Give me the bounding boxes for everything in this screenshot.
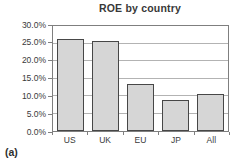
x-tick-mark-4 xyxy=(194,132,195,135)
y-tick-label-5: 5.0% xyxy=(0,109,46,120)
bar-slot-US xyxy=(53,26,88,131)
x-axis-labels: USUKEUJPAll xyxy=(52,135,229,145)
bar-slot-All xyxy=(193,26,228,131)
y-tick-mark-5 xyxy=(48,114,52,115)
y-tick-mark-20 xyxy=(48,60,52,61)
y-tick-mark-30 xyxy=(48,25,52,26)
y-tick-mark-10 xyxy=(48,96,52,97)
y-tick-mark-25 xyxy=(48,42,52,43)
bar-EU xyxy=(127,84,153,131)
x-tick-label-EU: EU xyxy=(123,135,158,145)
x-tick-mark-3 xyxy=(158,132,159,135)
bars-layer xyxy=(53,26,228,131)
panel-label: (a) xyxy=(5,146,18,158)
bar-JP xyxy=(162,100,188,132)
plot-area xyxy=(52,25,229,132)
bar-slot-JP xyxy=(158,26,193,131)
y-tick-label-15: 15.0% xyxy=(0,73,46,84)
y-tick-label-10: 10.0% xyxy=(0,91,46,102)
y-tick-label-30: 30.0% xyxy=(0,20,46,31)
y-tick-mark-15 xyxy=(48,78,52,79)
x-tick-mark-1 xyxy=(87,132,88,135)
chart-title: ROE by country xyxy=(42,2,238,14)
x-tick-label-US: US xyxy=(52,135,87,145)
bar-UK xyxy=(92,41,118,131)
x-tick-label-UK: UK xyxy=(87,135,122,145)
x-tick-label-JP: JP xyxy=(158,135,193,145)
bar-All xyxy=(197,94,223,131)
y-tick-label-0: 0.0% xyxy=(0,127,46,138)
bar-slot-EU xyxy=(123,26,158,131)
bar-US xyxy=(57,39,83,131)
x-tick-mark-0 xyxy=(52,132,53,135)
x-tick-mark-5 xyxy=(229,132,230,135)
x-tick-mark-2 xyxy=(123,132,124,135)
figure-panel: ROE by country 0.0%5.0%10.0%15.0%20.0%25… xyxy=(0,0,238,165)
y-tick-label-20: 20.0% xyxy=(0,55,46,66)
x-tick-label-All: All xyxy=(194,135,229,145)
y-tick-label-25: 25.0% xyxy=(0,37,46,48)
bar-slot-UK xyxy=(88,26,123,131)
